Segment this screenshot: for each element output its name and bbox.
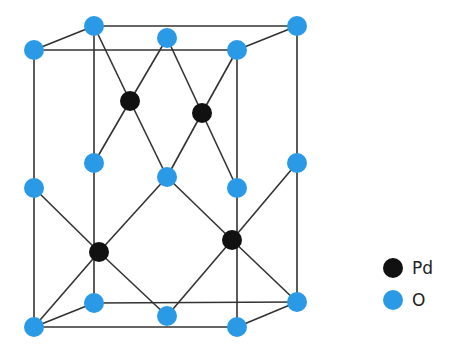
bond-line bbox=[99, 252, 167, 316]
bond-line bbox=[167, 177, 232, 240]
o-atom bbox=[157, 28, 177, 48]
bond-line bbox=[167, 240, 232, 316]
bond-line bbox=[34, 252, 99, 327]
o-atom bbox=[157, 167, 177, 187]
bond-line bbox=[232, 240, 297, 302]
legend-o-label: O bbox=[412, 290, 425, 310]
o-atom bbox=[287, 292, 307, 312]
bond-line bbox=[232, 163, 297, 240]
bond-line bbox=[130, 101, 167, 177]
crystal-structure-diagram: Pd O bbox=[0, 0, 462, 354]
o-atom bbox=[24, 317, 44, 337]
pd-atom bbox=[120, 91, 140, 111]
pd-atom bbox=[89, 242, 109, 262]
bond-line bbox=[202, 50, 237, 113]
legend-pd-marker bbox=[383, 258, 403, 278]
bond-line bbox=[94, 101, 130, 163]
o-atom bbox=[84, 293, 104, 313]
bond-line bbox=[94, 302, 297, 303]
bond-line bbox=[99, 177, 167, 252]
o-atom bbox=[84, 16, 104, 36]
o-atom bbox=[157, 306, 177, 326]
pd-atom bbox=[222, 230, 242, 250]
legend: Pd O bbox=[383, 258, 433, 310]
o-atom bbox=[227, 40, 247, 60]
bond-line bbox=[34, 188, 99, 252]
o-atom bbox=[24, 178, 44, 198]
o-atom bbox=[24, 40, 44, 60]
bond-line bbox=[94, 26, 130, 101]
bond-line bbox=[130, 38, 167, 101]
o-atom bbox=[227, 317, 247, 337]
o-atom bbox=[287, 16, 307, 36]
legend-pd-label: Pd bbox=[412, 258, 433, 278]
o-atom bbox=[227, 178, 247, 198]
o-atom bbox=[84, 153, 104, 173]
pd-atom bbox=[192, 103, 212, 123]
bond-line bbox=[167, 113, 202, 177]
bond-line bbox=[202, 113, 237, 188]
legend-o-marker bbox=[383, 290, 403, 310]
o-atom bbox=[287, 153, 307, 173]
